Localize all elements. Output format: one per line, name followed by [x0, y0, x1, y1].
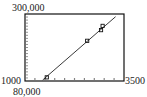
x-max-label: 3500 — [125, 75, 145, 86]
x-tick — [64, 78, 65, 79]
y-max-label: 300,000 — [12, 2, 45, 13]
x-tick — [54, 78, 55, 79]
x-tick — [94, 78, 95, 79]
y-min-label: 80,000 — [13, 86, 41, 97]
calculator-graph: 300,000 1000 80,000 3500 — [0, 0, 147, 97]
x-tick — [74, 78, 75, 79]
y-axis-ticks — [26, 17, 28, 78]
plot-frame — [25, 14, 124, 81]
x-min-label: 1000 — [1, 75, 21, 86]
x-tick — [84, 78, 85, 79]
x-tick — [34, 78, 35, 79]
x-tick — [104, 78, 105, 79]
x-tick — [114, 78, 115, 79]
